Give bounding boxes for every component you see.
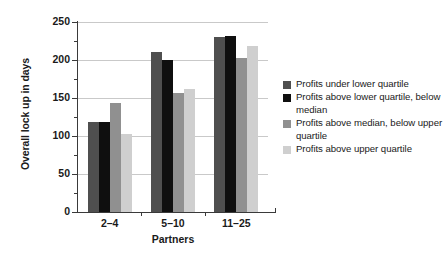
bar <box>184 89 195 212</box>
y-axis-tick <box>72 174 78 175</box>
bar-group <box>214 22 258 212</box>
bar <box>88 122 99 212</box>
bar <box>99 122 110 212</box>
y-axis-minor-tick <box>74 117 78 118</box>
y-axis-tick-label: 100 <box>0 129 70 141</box>
bar <box>151 52 162 212</box>
legend-item[interactable]: Profits under lower quartile <box>283 78 448 90</box>
x-axis-end-cap <box>275 208 276 213</box>
y-axis-tick-label: 150 <box>0 91 70 103</box>
y-axis-tick-label: 50 <box>0 167 70 179</box>
y-axis-minor-tick <box>74 193 78 194</box>
x-axis-line <box>77 212 275 213</box>
y-axis-tick <box>72 60 78 61</box>
bar <box>214 37 225 212</box>
legend-item-label: Profits above median, below upper quarti… <box>296 117 448 142</box>
bar <box>173 93 184 212</box>
y-axis-minor-tick <box>74 155 78 156</box>
bar-chart: Overall lock up in days 050100150200250 … <box>0 0 448 254</box>
bar-group <box>88 22 132 212</box>
legend-swatch-icon <box>283 81 291 89</box>
y-axis-tick-label: 0 <box>0 205 70 217</box>
legend-item-label: Profits under lower quartile <box>296 78 409 90</box>
x-axis-tick-label: 5–10 <box>141 217 204 229</box>
legend-item[interactable]: Profits above upper quartile <box>283 143 448 155</box>
plot-area <box>78 22 268 212</box>
y-axis-minor-tick <box>74 41 78 42</box>
x-axis-title: Partners <box>78 233 268 245</box>
y-axis-tick <box>72 212 78 213</box>
bar <box>236 58 247 212</box>
y-axis-title: Overall lock up in days <box>19 19 31 209</box>
bar-group <box>151 22 195 212</box>
y-axis-tick-label: 200 <box>0 53 70 65</box>
bar <box>247 46 258 212</box>
bar <box>121 134 132 212</box>
bar <box>162 60 173 212</box>
x-axis-tick-label: 2–4 <box>78 217 141 229</box>
y-axis-tick-label: 250 <box>0 15 70 27</box>
legend-item-label: Profits above upper quartile <box>296 143 412 155</box>
legend-item[interactable]: Profits above lower quartile, below medi… <box>283 91 448 116</box>
x-axis-tick <box>205 212 206 216</box>
y-axis-tick <box>72 136 78 137</box>
legend-swatch-icon <box>283 120 291 128</box>
y-axis-tick <box>72 98 78 99</box>
legend-item[interactable]: Profits above median, below upper quarti… <box>283 117 448 142</box>
y-axis-minor-tick <box>74 79 78 80</box>
legend-swatch-icon <box>283 146 291 154</box>
y-axis-tick <box>72 22 78 23</box>
bar <box>110 103 121 212</box>
legend-swatch-icon <box>283 94 291 102</box>
bar <box>225 36 236 212</box>
x-axis-tick-label: 11–25 <box>205 217 268 229</box>
chart-legend: Profits under lower quartileProfits abov… <box>283 78 448 156</box>
legend-item-label: Profits above lower quartile, below medi… <box>296 91 448 116</box>
x-axis-tick <box>141 212 142 216</box>
